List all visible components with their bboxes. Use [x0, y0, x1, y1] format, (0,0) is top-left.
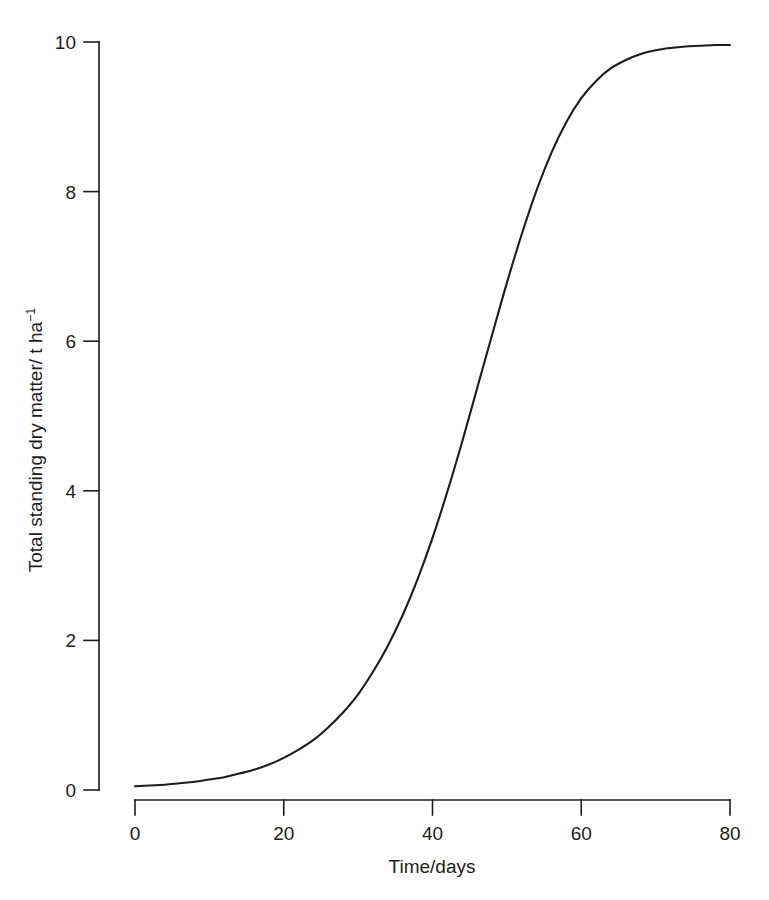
- data-series-line: [135, 45, 730, 786]
- chart-figure: 0246810 020406080 Time/days Total standi…: [0, 0, 769, 900]
- y-tick-label: 8: [65, 182, 76, 203]
- x-tick-label: 0: [130, 823, 141, 844]
- svg-text:Total standing dry matter/ t h: Total standing dry matter/ t ha−1: [24, 308, 46, 573]
- y-tick-label: 6: [65, 331, 76, 352]
- y-axis-ticks: [84, 42, 99, 790]
- x-tick-label: 20: [273, 823, 294, 844]
- x-axis-ticks: [135, 800, 730, 815]
- x-tick-label: 60: [571, 823, 592, 844]
- y-axis-title-text: Total standing dry matter/ t ha: [25, 322, 46, 573]
- y-axis-title: Total standing dry matter/ t ha−1: [24, 308, 46, 573]
- x-tick-label: 80: [719, 823, 740, 844]
- y-tick-label: 4: [65, 481, 76, 502]
- y-tick-label: 2: [65, 630, 76, 651]
- chart-canvas: 0246810 020406080 Time/days Total standi…: [0, 0, 769, 900]
- x-tick-label: 40: [422, 823, 443, 844]
- y-axis-title-superscript: −1: [24, 308, 38, 322]
- x-axis-title: Time/days: [389, 856, 476, 877]
- y-axis-tick-labels: 0246810: [55, 32, 77, 801]
- y-tick-label: 10: [55, 32, 76, 53]
- x-axis-tick-labels: 020406080: [130, 823, 741, 844]
- y-tick-label: 0: [65, 780, 76, 801]
